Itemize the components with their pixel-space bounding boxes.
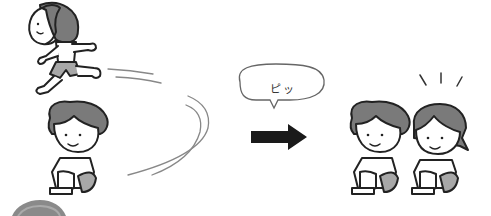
seated-boy-left xyxy=(49,102,108,194)
speech-bubble-text: ピッ xyxy=(258,80,308,96)
surprise-marks xyxy=(420,73,462,86)
seated-boy-right xyxy=(351,102,410,194)
arrow-right-icon xyxy=(251,124,307,150)
motion-lines xyxy=(108,69,209,175)
illustration-canvas xyxy=(0,0,491,216)
bottom-circle xyxy=(12,200,66,216)
running-child xyxy=(29,3,100,94)
seated-girl-right xyxy=(412,104,468,194)
